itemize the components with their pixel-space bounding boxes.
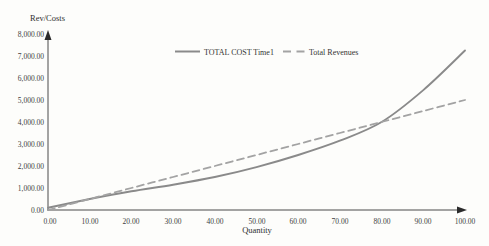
line-chart: Rev/Costs 0.00 1,000.00 2,000.00 3,000.0… [0, 0, 489, 246]
total-cost-legend-label: TOTAL COST Time1 [204, 48, 274, 57]
y-tick-label: 0.00 [31, 206, 44, 215]
y-tick-label: 3,000.00 [18, 140, 45, 149]
total-cost-line [48, 51, 465, 208]
x-tick-label: 80.00 [374, 217, 391, 226]
y-tick-label: 2,000.00 [18, 162, 45, 171]
x-tick-label: 30.00 [165, 217, 182, 226]
y-tick-label: 1,000.00 [18, 184, 45, 193]
y-tick-label: 7,000.00 [18, 52, 45, 61]
x-tick-label: 90.00 [415, 217, 432, 226]
x-tick-label: 60.00 [290, 217, 307, 226]
chart-plot-area: Rev/Costs 0.00 1,000.00 2,000.00 3,000.0… [0, 0, 489, 246]
y-axis-arrowhead-icon [45, 30, 52, 40]
legend: TOTAL COST Time1 Total Revenues [175, 48, 358, 57]
y-tick-label: 6,000.00 [18, 74, 45, 83]
x-tick-label: 100.00 [455, 217, 476, 226]
y-axis-title: Rev/Costs [30, 13, 65, 23]
x-axis-arrowhead-icon [457, 207, 467, 214]
y-tick-label: 8,000.00 [18, 30, 45, 39]
total-revenues-legend-label: Total Revenues [309, 48, 358, 57]
y-tick-label: 4,000.00 [18, 118, 45, 127]
x-tick-label: 0.00 [43, 217, 56, 226]
y-tick-label: 5,000.00 [18, 96, 45, 105]
x-axis-title: Quantity [242, 225, 272, 235]
x-tick-label: 10.00 [82, 217, 99, 226]
x-tick-label: 40.00 [207, 217, 224, 226]
total-revenues-line [48, 100, 465, 210]
x-tick-label: 70.00 [332, 217, 349, 226]
x-tick-label: 20.00 [123, 217, 140, 226]
